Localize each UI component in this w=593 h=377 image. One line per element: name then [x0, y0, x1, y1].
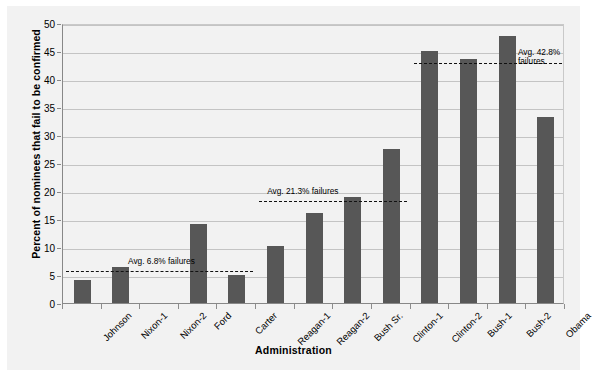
x-axis-category-label: Reagan-1	[296, 310, 333, 347]
x-axis-title: Administration	[7, 344, 580, 356]
y-axis-tick-label: 10	[25, 243, 55, 254]
y-axis-tick-mark	[57, 276, 61, 277]
x-axis-tick-mark	[564, 304, 565, 309]
y-axis-tick-mark	[57, 248, 61, 249]
x-axis-tick-mark	[525, 304, 526, 309]
gridline	[63, 81, 563, 82]
x-axis-category-label: Bush-2	[524, 310, 553, 339]
bar[interactable]	[344, 197, 361, 303]
bar[interactable]	[499, 36, 516, 303]
x-axis-category-label: Nixon-2	[177, 310, 208, 341]
gridline	[63, 165, 563, 166]
y-axis-tick-mark	[57, 164, 61, 165]
bar[interactable]	[228, 275, 245, 303]
gridline	[63, 137, 563, 138]
x-axis-category-label: Nixon-1	[139, 310, 170, 341]
average-line-label: Avg. 21.3% failures	[267, 187, 338, 197]
bar[interactable]	[460, 59, 477, 303]
y-axis-tick-mark	[57, 304, 61, 305]
x-axis-category-label: Obama	[563, 310, 593, 340]
x-axis-tick-mark	[410, 304, 411, 309]
x-axis-category-label: Clinton-1	[410, 310, 445, 345]
gridline	[63, 25, 563, 26]
x-axis-tick-mark	[448, 304, 449, 309]
y-axis-tick-mark	[57, 192, 61, 193]
chart-page: Percent of nominees that fail to be conf…	[7, 6, 580, 370]
y-axis-tick-label: 20	[25, 187, 55, 198]
y-axis-tick-mark	[57, 220, 61, 221]
average-line	[66, 271, 253, 272]
x-axis-category-label: Carter	[252, 310, 278, 336]
x-axis-category-label: Clinton-2	[449, 310, 484, 345]
bar[interactable]	[74, 280, 91, 303]
y-axis-tick-mark	[57, 52, 61, 53]
x-axis-tick-mark	[255, 304, 256, 309]
x-axis-tick-mark	[371, 304, 372, 309]
x-axis-tick-mark	[332, 304, 333, 309]
y-axis-tick-label: 5	[25, 271, 55, 282]
y-axis-tick-label: 0	[25, 299, 55, 310]
x-axis-tick-mark	[487, 304, 488, 309]
bar[interactable]	[267, 246, 284, 303]
y-axis-tick-mark	[57, 24, 61, 25]
y-axis-tick-mark	[57, 108, 61, 109]
gridline	[63, 109, 563, 110]
x-axis-category-label: Johnson	[101, 310, 134, 343]
y-axis-tick-label: 40	[25, 75, 55, 86]
average-line-label: Avg. 42.8% failures	[518, 48, 560, 67]
x-axis-category-label: Bush-1	[485, 310, 514, 339]
x-axis-tick-mark	[294, 304, 295, 309]
x-axis-tick-mark	[101, 304, 102, 309]
y-axis-tick-label: 45	[25, 47, 55, 58]
y-axis-tick-label: 15	[25, 215, 55, 226]
bar[interactable]	[537, 117, 554, 303]
gridline	[63, 53, 563, 54]
x-axis-category-label: Ford	[212, 310, 234, 332]
y-axis-tick-mark	[57, 136, 61, 137]
plot-area: Avg. 6.8% failuresAvg. 21.3% failuresAvg…	[62, 24, 564, 304]
x-axis-category-label: Reagan-2	[334, 310, 371, 347]
y-axis-tick-label: 50	[25, 19, 55, 30]
bar[interactable]	[306, 213, 323, 303]
y-axis-tick-label: 30	[25, 131, 55, 142]
x-axis-tick-mark	[62, 304, 63, 309]
x-axis-tick-mark	[216, 304, 217, 309]
x-axis-tick-mark	[139, 304, 140, 309]
bar[interactable]	[421, 51, 438, 303]
y-axis-tick-label: 25	[25, 159, 55, 170]
x-axis-category-label: Bush Sr.	[371, 310, 404, 343]
x-axis-tick-mark	[178, 304, 179, 309]
y-axis-tick-label: 35	[25, 103, 55, 114]
average-line	[259, 201, 407, 202]
average-line-label: Avg. 6.8% failures	[128, 257, 195, 267]
y-axis-tick-mark	[57, 80, 61, 81]
bar[interactable]	[383, 149, 400, 303]
